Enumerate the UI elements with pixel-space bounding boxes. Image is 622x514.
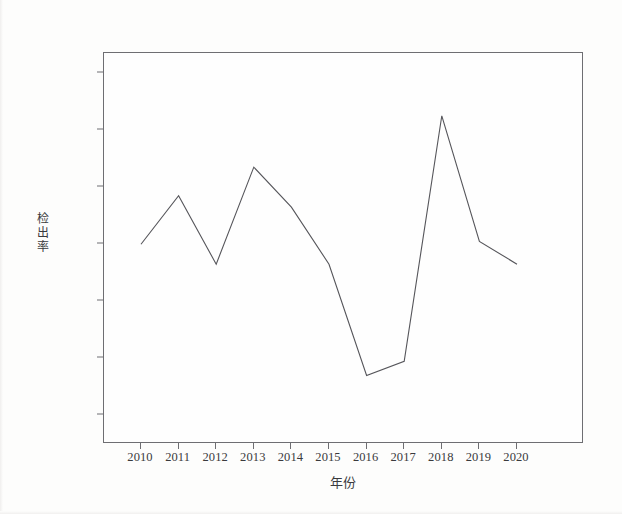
data-line xyxy=(141,116,517,376)
x-axis-tick-mark xyxy=(328,443,329,449)
x-axis-tick-mark xyxy=(366,443,367,449)
plot-area xyxy=(103,52,583,443)
y-axis-title-char: 率 xyxy=(34,240,51,254)
y-axis-title-char: 检 xyxy=(34,212,51,226)
x-axis-tick-label: 2020 xyxy=(492,451,540,465)
x-axis-tick-mark xyxy=(290,443,291,449)
x-axis-tick-mark xyxy=(140,443,141,449)
line-series-svg xyxy=(104,53,584,444)
x-axis-tick-mark xyxy=(441,443,442,449)
y-axis-title-char: 出 xyxy=(34,226,51,240)
y-axis-title: 检 出 率 xyxy=(34,212,51,254)
x-axis-tick-mark xyxy=(403,443,404,449)
x-axis-tick-mark xyxy=(253,443,254,449)
x-axis-tick-mark xyxy=(178,443,179,449)
x-axis-tick-mark xyxy=(516,443,517,449)
x-axis-tick-mark xyxy=(478,443,479,449)
x-axis-title: 年份 xyxy=(103,472,583,491)
x-axis-tick-mark xyxy=(215,443,216,449)
figure-page: 检 出 率 0.2000.1800.1600.1400.1200.1000.08… xyxy=(0,0,622,514)
y-axis: 检 出 率 0.2000.1800.1600.1400.1200.1000.08… xyxy=(0,0,103,514)
